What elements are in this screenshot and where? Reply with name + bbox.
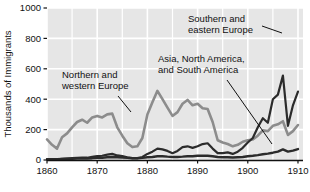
annotation-label-line2: eastern Europe [188, 24, 253, 35]
immigration-line-chart: 02004006008001000 1860187018801890190019… [0, 0, 310, 192]
y-axis-title: Thousands of Immigrants [2, 30, 13, 137]
x-tick-label: 1860 [36, 165, 57, 176]
chart-canvas: 02004006008001000 1860187018801890190019… [0, 0, 310, 192]
y-tick-label: 0 [36, 154, 41, 165]
x-tick-label: 1910 [287, 165, 308, 176]
annotation-label-line1: Southern and [188, 13, 245, 24]
y-axis-ticks: 02004006008001000 [20, 2, 47, 165]
x-tick-label: 1890 [187, 165, 208, 176]
annotation-label-line2: western Europe [61, 80, 129, 91]
y-tick-label: 1000 [20, 2, 41, 13]
y-tick-label: 600 [25, 63, 41, 74]
x-tick-label: 1870 [87, 165, 108, 176]
x-tick-label: 1900 [237, 165, 258, 176]
annotation-label-line2: and South America [158, 64, 239, 75]
x-axis-ticks: 186018701880189019001910 [36, 160, 308, 176]
y-tick-label: 800 [25, 33, 41, 44]
annotation-label-line1: Northern and [62, 69, 117, 80]
x-tick-label: 1880 [137, 165, 158, 176]
annotation-label-line1: Asia, North America, [158, 53, 245, 64]
y-tick-label: 200 [25, 124, 41, 135]
y-tick-label: 400 [25, 94, 41, 105]
